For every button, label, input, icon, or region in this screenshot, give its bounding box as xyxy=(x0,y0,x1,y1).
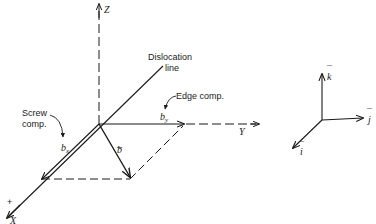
bx-screw-component-vector xyxy=(42,124,99,179)
i-unit-vector xyxy=(293,120,322,148)
x-plus-sign: + xyxy=(7,197,12,207)
screw-comp-label-2: comp. xyxy=(22,119,47,129)
bx-label: bx xyxy=(61,142,70,155)
parallelogram-dashed-right xyxy=(130,126,183,179)
unit-vector-triad xyxy=(293,74,363,148)
dislocation-line-label-2: line xyxy=(165,63,179,73)
edge-comp-label: Edge comp. xyxy=(176,91,224,101)
i-bar: ¯ xyxy=(298,140,305,150)
j-bar: ¯ xyxy=(366,107,373,117)
screw-comp-label-1: Screw xyxy=(22,108,48,118)
by-label: by xyxy=(160,111,169,124)
j-unit-vector xyxy=(322,118,363,120)
k-bar: ¯ xyxy=(326,64,333,74)
edge-comp-pointer-arrow xyxy=(165,96,176,109)
z-axis-label: Z xyxy=(104,4,110,15)
dislocation-line-label-1: Dislocation xyxy=(148,52,192,62)
dislocation-burgers-vector-diagram: Z Dislocation line + X Y b _ bx Screw co… xyxy=(0,0,376,224)
y-axis-label: Y xyxy=(239,126,246,137)
screw-comp-pointer-arrow xyxy=(50,115,63,137)
x-axis-label: X xyxy=(9,215,17,224)
b-vector-bar: _ xyxy=(116,138,123,148)
dislocation-line xyxy=(8,66,163,217)
b-burgers-vector xyxy=(99,124,130,177)
